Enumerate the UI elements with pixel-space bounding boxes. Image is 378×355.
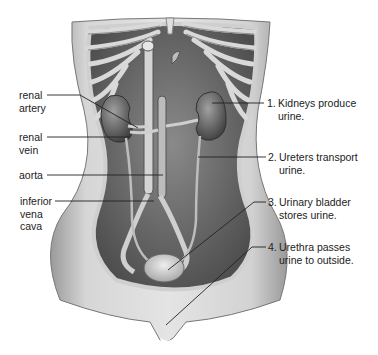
label-ureters: 2.Ureters transport urine. [268,151,358,176]
label-urethra: 4.Urethra passes urine to outside. [268,241,354,266]
label-line: aorta [19,169,43,181]
label-line: urine. [268,164,358,177]
anatomy-illustration [0,0,378,355]
label-line: Urinary bladder [279,196,351,208]
left-kidney [101,95,132,142]
label-number: 1. [267,97,278,110]
label-aorta: aorta [19,169,43,182]
label-line: inferior [20,195,52,207]
urinary-bladder [144,254,184,282]
label-line: renal [19,89,42,101]
label-line: Urethra passes [279,241,350,253]
label-renal-artery: renal artery [19,89,46,114]
label-line: stores urine. [268,209,351,222]
right-kidney [196,92,226,140]
label-line: urine to outside. [268,254,354,267]
label-line: Kidneys produce [278,97,356,109]
label-line: urine. [267,110,356,123]
label-number: 3. [268,196,279,209]
label-urinary-bladder: 3.Urinary bladder stores urine. [268,196,351,221]
label-line: artery [19,102,46,115]
label-number: 4. [268,241,279,254]
label-line: cava [20,220,52,233]
label-line: vein [19,144,42,157]
label-number: 2. [268,151,279,164]
label-kidneys: 1.Kidneys produce urine. [267,97,356,122]
label-line: Ureters transport [279,151,358,163]
label-line: renal [19,131,42,143]
label-renal-vein: renal vein [19,131,42,156]
label-line: vena [20,208,52,221]
xiphoid [166,18,174,34]
label-inferior-vena-cava: inferior vena cava [20,195,52,233]
